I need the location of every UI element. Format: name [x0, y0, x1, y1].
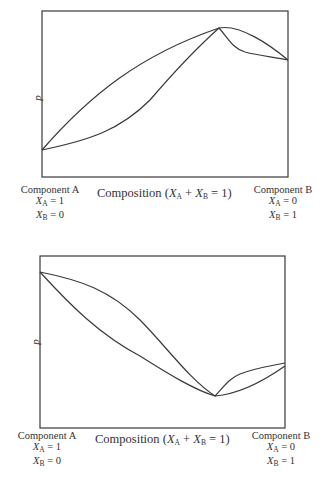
x-axis-label: Composition (XA + XB = 1): [97, 186, 232, 201]
upper-curve: [42, 28, 288, 150]
y-axis-label: p: [29, 339, 41, 345]
plot-frame: [42, 11, 288, 177]
component-a-label: Component A XA = 1 XB = 0: [12, 184, 88, 223]
component-a-title: Component A: [9, 430, 85, 441]
x-axis-label: Composition (XA + XB = 1): [95, 432, 230, 447]
component-b-title: Component B: [243, 430, 319, 441]
y-axis-label: p: [31, 95, 43, 101]
lower-curve: [40, 272, 285, 396]
lower-curve: [42, 28, 288, 150]
component-b-label: Component B XA = 0 XB = 1: [245, 184, 321, 223]
upper-curve: [40, 272, 285, 396]
top-diagram: p Component A XA = 1 XB = 0 Composition …: [0, 0, 328, 235]
component-a-label: Component A XA = 1 XB = 0: [9, 430, 85, 469]
component-a-title: Component A: [12, 184, 88, 195]
component-b-title: Component B: [245, 184, 321, 195]
component-b-label: Component B XA = 0 XB = 1: [243, 430, 319, 469]
bottom-diagram: p Component A XA = 1 XB = 0 Composition …: [0, 230, 328, 492]
